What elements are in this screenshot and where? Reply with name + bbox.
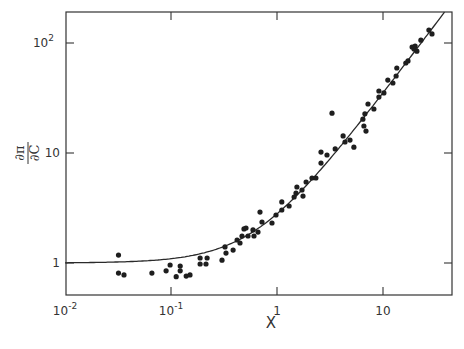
data-point <box>363 129 368 134</box>
data-point <box>313 175 318 180</box>
data-point <box>385 78 390 83</box>
data-point <box>405 58 410 63</box>
data-point <box>219 258 224 263</box>
y-axis-label: ∂π∂C <box>12 142 42 164</box>
data-point <box>116 253 121 258</box>
plot-border <box>66 12 452 295</box>
data-point <box>394 73 399 78</box>
data-point <box>149 271 154 276</box>
svg-text:∂C: ∂C <box>27 145 42 162</box>
data-point <box>414 49 419 54</box>
data-point <box>178 268 183 273</box>
data-point <box>293 190 298 195</box>
data-point <box>237 240 242 245</box>
data-point <box>304 179 309 184</box>
data-point <box>250 227 255 232</box>
data-point <box>245 233 250 238</box>
data-point <box>376 95 381 100</box>
data-point <box>318 150 323 155</box>
data-point <box>198 255 203 260</box>
data-point <box>324 152 329 157</box>
tick-labels: 10-210-1110110102 <box>33 33 391 318</box>
x-axis-label: X <box>266 314 276 332</box>
svg-text:∂π: ∂π <box>12 145 27 161</box>
data-point <box>360 117 365 122</box>
y-tick-label: 10 <box>45 146 60 160</box>
data-point <box>116 271 121 276</box>
data-point <box>164 268 169 273</box>
data-point <box>299 187 304 192</box>
data-point <box>413 43 418 48</box>
plot-frame <box>66 12 452 295</box>
data-point <box>279 199 284 204</box>
data-point <box>279 207 284 212</box>
data-point <box>231 248 236 253</box>
data-point <box>371 106 376 111</box>
data-point <box>255 230 260 235</box>
data-point <box>429 31 434 36</box>
data-point <box>341 133 346 138</box>
data-point <box>269 220 274 225</box>
data-point <box>294 184 299 189</box>
data-point <box>203 261 208 266</box>
data-point <box>251 233 256 238</box>
data-point <box>351 145 356 150</box>
data-point <box>361 123 366 128</box>
y-tick-label: 102 <box>33 33 54 50</box>
data-point <box>376 88 381 93</box>
data-point <box>273 212 278 217</box>
data-point <box>318 161 323 166</box>
data-point <box>381 90 386 95</box>
data-point <box>205 255 210 260</box>
x-tick-label: 10 <box>375 304 390 318</box>
data-point <box>121 272 126 277</box>
data-point <box>333 146 338 151</box>
data-point <box>168 262 173 267</box>
data-point <box>187 272 192 277</box>
data-point <box>342 139 347 144</box>
data-point <box>418 38 423 43</box>
data-point <box>329 111 334 116</box>
data-point <box>223 251 228 256</box>
axis-ticks <box>66 12 452 295</box>
data-point <box>347 138 352 143</box>
data-point <box>390 80 395 85</box>
y-tick-label: 1 <box>52 256 60 270</box>
data-point <box>287 203 292 208</box>
data-point <box>259 219 264 224</box>
data-point <box>222 244 227 249</box>
log-log-scatter-chart: 10-210-1110110102 X ∂π∂C <box>0 0 464 349</box>
fit-curve <box>65 12 445 263</box>
data-point <box>198 261 203 266</box>
data-point <box>178 263 183 268</box>
data-point <box>239 233 244 238</box>
data-points <box>116 28 435 280</box>
data-point <box>365 101 370 106</box>
data-point <box>174 274 179 279</box>
x-tick-label: 10-1 <box>159 301 183 318</box>
data-point <box>243 225 248 230</box>
data-point <box>300 194 305 199</box>
data-point <box>362 111 367 116</box>
data-point <box>257 210 262 215</box>
data-point <box>394 65 399 70</box>
x-tick-label: 10-2 <box>53 301 77 318</box>
